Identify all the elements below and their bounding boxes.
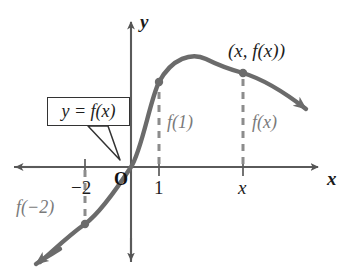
tick-label-x: x [238,178,246,197]
function-curve [40,56,306,262]
label-f-minus-2: f(−2) [16,198,54,216]
point-f-x [239,69,247,77]
point-f-1 [155,78,163,86]
label-f-x: f(x) [252,113,277,131]
function-callout-box: y = f(x) [47,97,130,126]
tick-label-minus-2: −2 [71,178,91,197]
callout-label: y = f(x) [61,101,115,122]
callout-pointer [88,126,120,160]
label-f-1: f(1) [167,113,193,131]
label-point-coordinate: (x, f(x)) [228,41,285,60]
function-curve-left-tail [36,249,60,264]
x-axis-label: x [327,169,337,188]
graph-canvas [0,0,345,277]
y-axis-label: y [140,12,148,31]
origin-label: O [114,170,128,188]
function-graph-figure: y = f(x) x y O −2 1 x f(−2) f(1) f(x) (x… [0,0,345,277]
tick-label-one: 1 [154,178,164,197]
point-f-minus-2 [81,220,89,228]
